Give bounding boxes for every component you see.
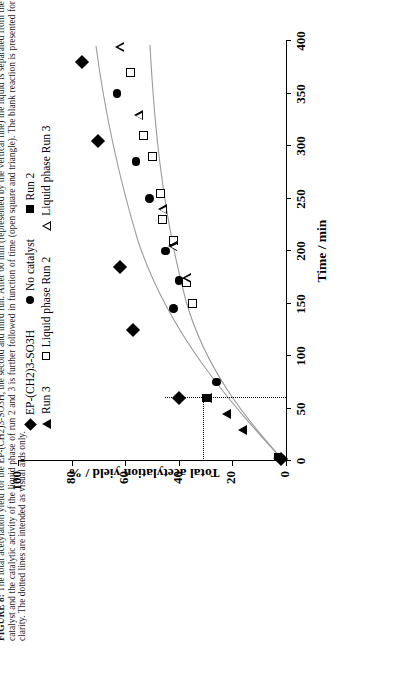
data-point <box>158 205 167 215</box>
figure-caption-label: FIGURE 8: <box>0 594 6 641</box>
x-tick-100 <box>286 355 291 356</box>
x-tick-50 <box>286 408 291 409</box>
x-tick-label-150: 150 <box>293 284 309 324</box>
x-tick-400 <box>286 40 291 41</box>
data-point <box>156 189 165 198</box>
data-point <box>158 215 167 224</box>
x-tick-250 <box>286 198 291 199</box>
x-axis-title: Time / min <box>314 41 330 461</box>
x-tick-150 <box>286 303 291 304</box>
figure-caption-wrapper: FIGURE 8: The total acetylation yield fo… <box>0 1 54 641</box>
data-point <box>134 110 143 120</box>
acetylation-yield-chart: 0 50 100 150 200 250 300 350 400 0 20 40… <box>0 5 370 525</box>
plot-area <box>18 41 286 461</box>
x-tick-label-200: 200 <box>293 231 309 271</box>
x-tick-label-0: 0 <box>293 441 309 481</box>
figure-caption: FIGURE 8: The total acetylation yield fo… <box>0 1 28 641</box>
data-point <box>169 305 178 314</box>
data-point <box>113 89 122 98</box>
x-tick-label-50: 50 <box>293 389 309 429</box>
chart-rotation-wrapper: 0 50 100 150 200 250 300 350 400 0 20 40… <box>0 5 370 525</box>
data-point <box>168 241 177 251</box>
separation-time-guide-line <box>165 397 286 398</box>
data-point <box>115 42 124 52</box>
data-point <box>148 152 157 161</box>
data-point <box>203 394 212 404</box>
data-point <box>188 299 197 308</box>
x-tick-label-100: 100 <box>293 336 309 376</box>
x-tick-350 <box>286 93 291 94</box>
data-point <box>145 194 154 203</box>
data-point <box>238 425 247 435</box>
data-point <box>126 68 135 77</box>
data-point <box>212 378 221 387</box>
figure-page: 0 50 100 150 200 250 300 350 400 0 20 40… <box>0 0 393 674</box>
yield-guide-line <box>203 396 204 461</box>
x-tick-label-300: 300 <box>293 126 309 166</box>
data-point <box>182 273 191 283</box>
x-tick-300 <box>286 145 291 146</box>
x-axis-line <box>286 41 287 461</box>
x-tick-label-250: 250 <box>293 179 309 219</box>
data-point <box>222 409 231 419</box>
trend-curves <box>18 41 286 461</box>
x-tick-200 <box>286 250 291 251</box>
x-tick-label-400: 400 <box>293 21 309 61</box>
x-tick-label-350: 350 <box>293 74 309 114</box>
data-point <box>132 158 141 167</box>
y-tick-0 <box>286 461 287 466</box>
data-point <box>276 454 285 463</box>
data-point <box>139 131 148 140</box>
figure-caption-text: The total acetylation yield for the EP-(… <box>0 1 27 641</box>
